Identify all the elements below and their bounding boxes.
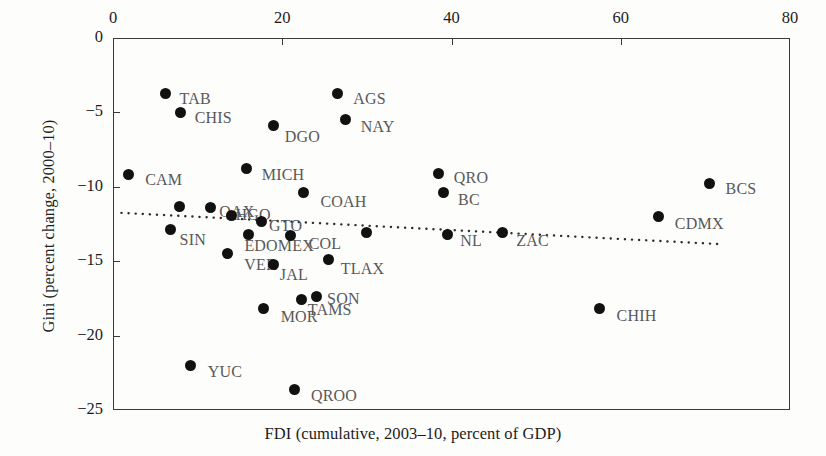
y-tick-mark bbox=[113, 112, 120, 113]
data-point-label: JAL bbox=[280, 266, 308, 284]
data-point[interactable] bbox=[175, 107, 186, 118]
data-point[interactable] bbox=[332, 88, 343, 99]
data-point[interactable] bbox=[222, 248, 233, 259]
y-tick-label: −5 bbox=[55, 101, 103, 121]
data-point-label: CHIH bbox=[617, 307, 657, 325]
x-tick-mark bbox=[282, 38, 283, 45]
data-point-label: AGS bbox=[353, 90, 386, 108]
x-tick-label: 60 bbox=[591, 8, 651, 28]
data-point-label: CAM bbox=[145, 171, 182, 189]
data-point-label: YUC bbox=[208, 363, 242, 381]
y-tick-label: −10 bbox=[55, 176, 103, 196]
data-point[interactable] bbox=[256, 216, 267, 227]
data-point-label: ZAC bbox=[516, 232, 549, 250]
y-tick-mark bbox=[113, 261, 120, 262]
x-tick-mark bbox=[621, 38, 622, 45]
data-point-label: CHIS bbox=[195, 109, 232, 127]
x-tick-label: 0 bbox=[83, 8, 143, 28]
y-tick-label: −25 bbox=[55, 399, 103, 419]
x-tick-mark bbox=[452, 38, 453, 45]
data-point-label: BC bbox=[458, 191, 480, 209]
data-point-label: BCS bbox=[726, 180, 757, 198]
y-tick-label: −15 bbox=[55, 250, 103, 270]
x-tick-label: 80 bbox=[760, 8, 820, 28]
data-point[interactable] bbox=[205, 202, 216, 213]
data-point-label: CDMX bbox=[675, 215, 724, 233]
data-point[interactable] bbox=[268, 259, 279, 270]
scatter-chart-figure: 020406080 0−5−10−15−20−25 TABCHISAGSNAYD… bbox=[0, 0, 826, 456]
y-tick-mark bbox=[113, 187, 120, 188]
data-point[interactable] bbox=[174, 201, 185, 212]
data-point-label: MICH bbox=[262, 166, 305, 184]
data-point[interactable] bbox=[442, 229, 453, 240]
y-axis-title: Gini (percent change, 2000–10) bbox=[39, 36, 59, 416]
data-point[interactable] bbox=[311, 291, 322, 302]
x-axis-title: FDI (cumulative, 2003–10, percent of GDP… bbox=[0, 424, 826, 444]
y-tick-mark bbox=[113, 336, 120, 337]
data-point[interactable] bbox=[160, 88, 171, 99]
data-point-label: COAH bbox=[320, 193, 366, 211]
y-tick-label: 0 bbox=[55, 27, 103, 47]
data-point-label: COL bbox=[309, 235, 342, 253]
data-point[interactable] bbox=[438, 187, 449, 198]
data-point-label: SON bbox=[327, 290, 360, 308]
data-point-label: TLAX bbox=[341, 260, 384, 278]
data-point-label: TAB bbox=[179, 90, 210, 108]
data-point-label: NL bbox=[460, 232, 482, 250]
data-point-label: SIN bbox=[180, 231, 206, 249]
x-tick-label: 20 bbox=[252, 8, 312, 28]
y-tick-label: −20 bbox=[55, 325, 103, 345]
data-point-label: QRO bbox=[454, 169, 488, 187]
data-point-label: NAY bbox=[361, 118, 395, 136]
data-point-label: QROO bbox=[311, 387, 357, 405]
data-point-label: EDOMEX bbox=[244, 237, 314, 255]
data-point-label: DGO bbox=[285, 128, 320, 146]
x-tick-label: 40 bbox=[422, 8, 482, 28]
